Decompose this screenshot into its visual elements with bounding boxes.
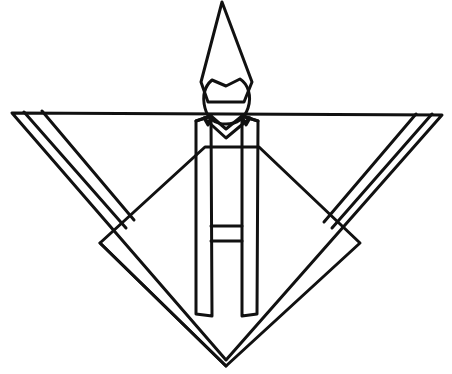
sash [211,226,242,241]
robe-diamond [100,147,360,366]
doll-drawing [0,0,452,374]
origami-doll-illustration [0,0,452,374]
